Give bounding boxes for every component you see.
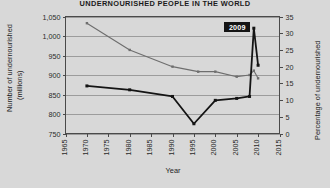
annotation-label: 2009 [229,23,246,32]
y-tick-label: 1,000 [43,32,61,41]
annotation-2009: 2009 [224,22,250,32]
chart-container: UNDERNOURISHED PEOPLE IN THE WORLD 75080… [0,0,330,188]
data-point [214,70,216,72]
y2-tick-label: 25 [286,46,294,55]
chart-title: UNDERNOURISHED PEOPLE IN THE WORLD [80,0,251,8]
data-point [192,122,195,125]
data-point [171,95,174,98]
y-tick-label: 1,050 [43,13,61,22]
y-axis-left-label-line1: Number of undernourished [5,24,14,112]
y2-tick-label: 15 [286,79,294,88]
x-tick-label: 1980 [124,140,133,156]
y2-tick-label: 10 [286,96,294,105]
data-point [257,77,259,79]
x-axis-label: Year [166,166,181,175]
y-tick-label: 750 [49,130,61,139]
data-point [86,22,88,24]
x-tick-label: 2010 [252,140,261,156]
y2-tick-label: 35 [286,13,294,22]
undernourished-line-chart: UNDERNOURISHED PEOPLE IN THE WORLD 75080… [0,0,330,188]
x-tick-label: 1995 [188,140,197,156]
y-axis-left-label-line2: (millions) [15,70,24,100]
data-point [214,99,217,102]
data-point [129,49,131,51]
x-tick-label: 2005 [231,140,240,156]
data-point [235,97,238,100]
y2-tick-label: 20 [286,63,294,72]
y2-tick-label: 5 [286,113,290,122]
data-point [248,95,251,98]
data-point [252,27,255,30]
data-point [171,65,173,67]
data-point [253,69,255,71]
x-tick-label: 1990 [167,140,176,156]
y-tick-label: 900 [49,71,61,80]
data-point [236,75,238,77]
y-axis-right-label: Percentage of undernourished [313,41,322,140]
y2-tick-label: 30 [286,29,294,38]
data-point [257,64,260,67]
x-tick-label: 2015 [274,140,283,156]
data-point [197,70,199,72]
x-tick-label: 2000 [209,140,218,156]
y-tick-label: 850 [49,91,61,100]
data-point [85,84,88,87]
x-tick-label: 1985 [145,140,154,156]
x-tick-label: 1970 [81,140,90,156]
x-tick-label: 1975 [102,140,111,156]
y-tick-label: 800 [49,110,61,119]
data-point [128,88,131,91]
y2-tick-label: 0 [286,130,290,139]
x-tick-label: 1965 [60,140,69,156]
y-tick-label: 950 [49,52,61,61]
